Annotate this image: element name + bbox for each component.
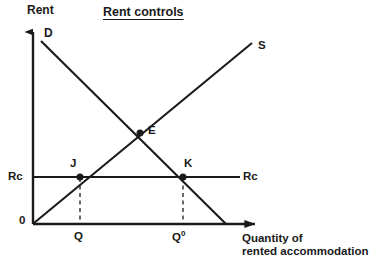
x-tick-label-q0-base: Q <box>172 231 181 243</box>
x-tick-label-q0: Q0 <box>172 230 185 244</box>
point-j-marker <box>77 174 84 181</box>
diagram-canvas <box>0 0 388 266</box>
supply-curve-label: S <box>258 39 266 52</box>
demand-curve-label: D <box>44 27 53 40</box>
point-e-marker <box>137 130 144 137</box>
point-k-marker <box>180 174 187 181</box>
x-axis-label-line2: rented accommodation <box>242 245 369 258</box>
y-axis-label: Rent <box>27 4 54 17</box>
rent-control-line-label: Rc <box>243 170 258 183</box>
x-axis-label: Quantity of rented accommodation <box>242 232 369 258</box>
page-title: Rent controls <box>103 5 184 19</box>
origin-label: 0 <box>19 214 25 227</box>
x-axis-label-line1: Quantity of <box>242 232 303 244</box>
x-tick-label-q: Q <box>74 230 83 243</box>
point-j-label: J <box>70 157 76 170</box>
point-k-label: K <box>184 157 192 170</box>
x-tick-label-q0-superscript: 0 <box>181 229 185 238</box>
demand-curve <box>41 41 226 224</box>
y-tick-label-rc: Rc <box>8 170 23 183</box>
point-e-label: E <box>148 124 156 137</box>
rent-controls-diagram: Rent controls Rent Quantity of rented ac… <box>0 0 388 266</box>
